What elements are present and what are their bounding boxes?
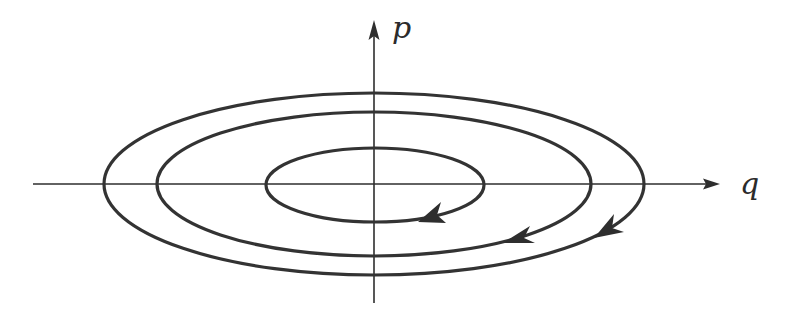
orbit-inner (266, 148, 484, 222)
phase-space-figure: q p (0, 0, 793, 317)
p-axis (369, 20, 380, 303)
q-axis-label: q (740, 166, 759, 201)
q-axis (33, 179, 720, 190)
inner-orbit-arrow-icon (418, 202, 446, 223)
outer-orbit-arrow-icon (594, 214, 624, 238)
p-axis-label: p (392, 10, 411, 45)
